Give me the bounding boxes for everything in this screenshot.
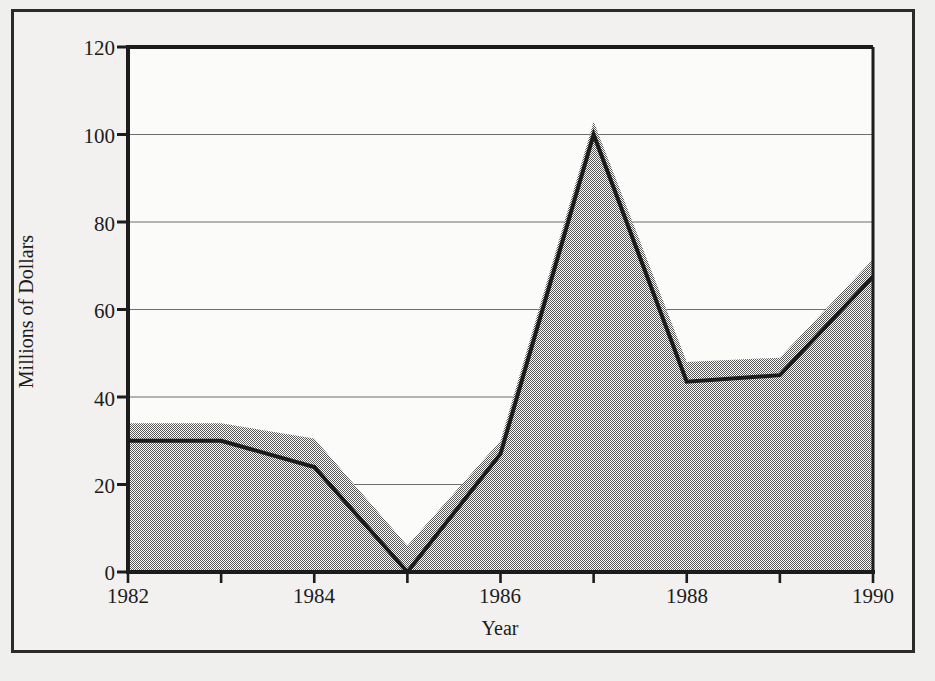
plot-area xyxy=(0,0,935,681)
chart-figure: U.S. AID TO CONTRAS Millions of Dollars … xyxy=(0,0,935,681)
